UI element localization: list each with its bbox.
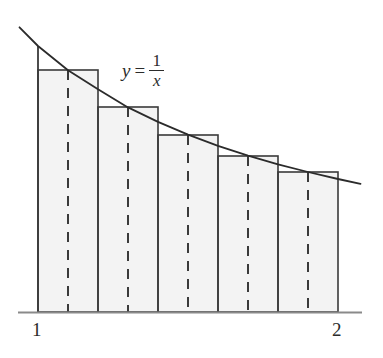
- equation-fraction: 1 x: [149, 52, 164, 89]
- figure-canvas: [0, 0, 383, 358]
- x-axis-tick-label-2: 2: [332, 320, 342, 339]
- midpoint-rule-figure: 1 2 y = 1 x: [0, 0, 383, 358]
- equation-equals-sign: =: [132, 61, 149, 80]
- curve-equation-label: y = 1 x: [122, 52, 164, 89]
- equation-denominator: x: [150, 71, 164, 89]
- x-axis-tick-label-1: 1: [32, 320, 42, 339]
- equation-variable: y: [122, 61, 132, 80]
- rectangle-fill-2: [98, 107, 158, 312]
- equation-numerator: 1: [149, 52, 164, 70]
